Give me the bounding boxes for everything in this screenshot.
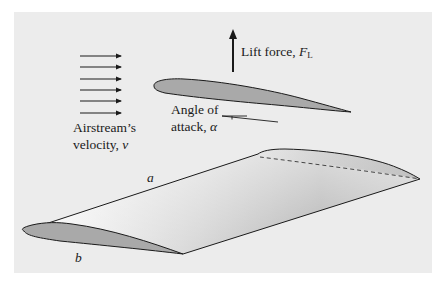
airstream-label-line1: Airstream’s — [73, 120, 136, 136]
angle-of-attack-indicator — [222, 116, 278, 122]
airfoil-diagram — [0, 0, 438, 284]
point-b-label: b — [75, 250, 82, 266]
airstream-label-line2: velocity, v — [73, 137, 128, 153]
angle-label-line1: Angle of — [171, 102, 219, 118]
lift-force-label: Lift force, FL — [241, 44, 313, 63]
airstream-arrows — [80, 56, 121, 113]
lift-force-text: Lift force, — [241, 44, 299, 59]
angle-label-line2: attack, α — [171, 119, 217, 135]
lift-force-subscript: L — [307, 50, 313, 60]
velocity-text: velocity, — [73, 137, 122, 152]
attack-text: attack, — [171, 119, 210, 134]
point-a-label: a — [147, 170, 154, 186]
wing-3d — [22, 149, 420, 254]
velocity-symbol: v — [122, 137, 128, 152]
lift-arrow-icon — [229, 29, 237, 72]
alpha-symbol: α — [210, 119, 217, 134]
